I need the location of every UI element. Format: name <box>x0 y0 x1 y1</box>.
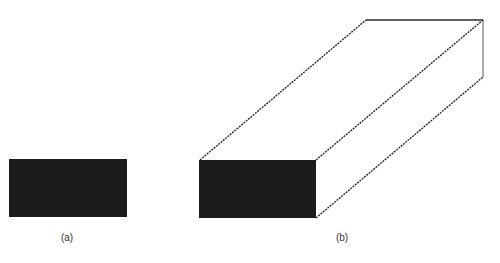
cross-section-rectangle <box>9 159 127 217</box>
edge-top-left-diagonal <box>200 20 366 160</box>
panel-b <box>199 20 483 218</box>
panel-a-label: (a) <box>61 232 73 243</box>
edge-bottom-right-diagonal <box>316 77 483 218</box>
figure-canvas <box>0 0 500 263</box>
panel-b-label: (b) <box>336 232 348 243</box>
front-face-rectangle <box>199 160 316 218</box>
panel-a <box>9 159 127 217</box>
